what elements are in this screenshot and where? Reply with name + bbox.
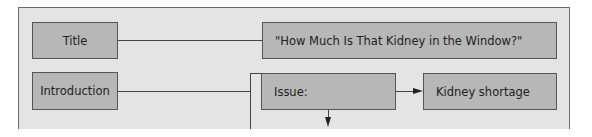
issue-box: Issue: — [261, 73, 396, 110]
title-label-box: Title — [32, 22, 118, 59]
title-content-box: "How Much Is That Kidney in the Window?" — [262, 22, 557, 59]
issue-label: Issue: — [274, 85, 308, 99]
kidney-shortage-label: Kidney shortage — [436, 85, 530, 99]
bracket-vertical — [250, 73, 251, 129]
arrow-right-icon — [413, 88, 423, 94]
introduction-label-box: Introduction — [32, 72, 118, 110]
title-content: "How Much Is That Kidney in the Window?" — [275, 34, 522, 48]
kidney-shortage-box: Kidney shortage — [423, 73, 557, 110]
introduction-connector — [118, 91, 250, 92]
introduction-label: Introduction — [40, 84, 110, 98]
title-label: Title — [63, 34, 88, 48]
title-connector — [118, 40, 263, 41]
arrow-down-icon — [325, 117, 331, 127]
